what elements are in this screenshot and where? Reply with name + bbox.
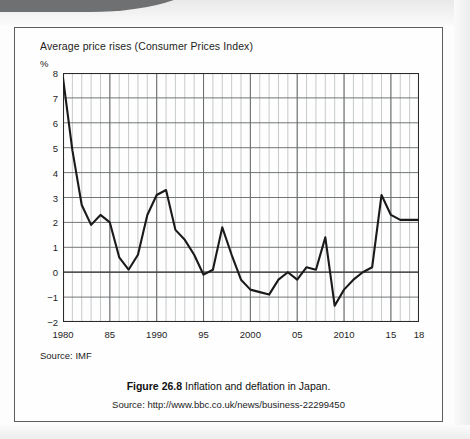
page-right-edge-shading: [454, 0, 470, 439]
figure-number: Figure 26.8: [127, 380, 182, 392]
x-tick-label: 05: [292, 329, 303, 340]
y-tick-label: 6: [36, 117, 58, 128]
y-tick-label: 1: [36, 242, 58, 253]
page-bottom-edge-shading: [0, 425, 470, 439]
y-tick-label: 5: [36, 142, 58, 153]
y-tick-label: 2: [36, 217, 58, 228]
chart-source-note: Source: IMF: [40, 350, 92, 361]
x-tick-label: 1990: [146, 329, 167, 340]
chart-title: Average price rises (Consumer Prices Ind…: [40, 40, 253, 52]
figure-frame: Average price rises (Consumer Prices Ind…: [14, 27, 443, 422]
x-tick-label: 15: [386, 329, 397, 340]
x-tick-label: 2010: [333, 329, 354, 340]
y-tick-label: 7: [36, 92, 58, 103]
y-tick-label: −1: [36, 292, 58, 303]
y-tick-label: 8: [36, 68, 58, 79]
x-tick-label: 2000: [240, 329, 261, 340]
y-tick-label: 0: [36, 267, 58, 278]
figure-caption-text: Inflation and deflation in Japan.: [185, 380, 330, 392]
x-tick-label: 85: [105, 329, 116, 340]
figure-source-url: Source: http://www.bbc.co.uk/news/busine…: [15, 399, 442, 410]
x-tick-label: 18: [414, 329, 425, 340]
y-tick-label: 3: [36, 192, 58, 203]
plot-area: 876543210−1−2 19808519909520000520101518: [63, 73, 419, 322]
y-tick-label: −2: [36, 317, 58, 328]
chart-svg: [63, 73, 419, 322]
x-tick-label: 1980: [52, 329, 73, 340]
y-tick-label: 4: [36, 167, 58, 178]
figure-caption: Figure 26.8 Inflation and deflation in J…: [15, 380, 442, 392]
x-tick-label: 95: [198, 329, 209, 340]
